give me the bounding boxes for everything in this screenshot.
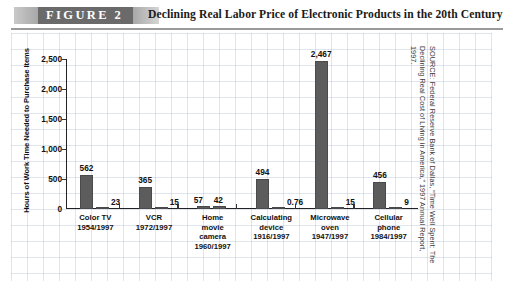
chart-bar — [197, 206, 210, 209]
chart-bar — [139, 187, 152, 209]
chart-bar — [315, 61, 328, 209]
header-divider — [11, 28, 503, 30]
figure-header: FIGURE 2 Declining Real Labor Price of E… — [0, 6, 509, 28]
bar-group: 5742 — [183, 45, 242, 209]
chart-bar — [155, 207, 168, 209]
bar-group: 4940.76 — [242, 45, 301, 209]
badge-left-gradient — [14, 7, 38, 24]
chart-bar — [389, 207, 402, 209]
x-axis-group-separator — [177, 204, 178, 209]
bar-value-label: 365 — [132, 175, 159, 185]
y-axis-tick-label: 2,000 — [22, 84, 62, 94]
bar-value-label: 42 — [209, 195, 227, 205]
bar-value-label: 562 — [73, 163, 100, 173]
y-axis-tick-label: 2,500 — [22, 54, 62, 64]
y-axis-tick-labels: 05001,0001,5002,0002,500 — [0, 33, 62, 281]
bar-value-label: 57 — [189, 195, 207, 205]
x-axis-group-separator — [295, 204, 296, 209]
figure-number-label: FIGURE 2 — [38, 7, 133, 24]
bar-group: 2,46715 — [301, 45, 360, 209]
x-axis-group-separator — [119, 204, 120, 209]
x-axis-group-separator — [353, 204, 354, 209]
chart-bar — [80, 175, 93, 209]
chart-bar — [256, 179, 269, 209]
bar-group: 36515 — [125, 45, 184, 209]
x-axis-group-separator — [236, 204, 237, 209]
category-label-line: 1960/1997 — [167, 242, 258, 252]
bar-value-label: 456 — [366, 170, 393, 180]
y-axis-tick-label: 1,500 — [22, 114, 62, 124]
bar-group: 56223 — [66, 45, 125, 209]
y-axis-tick-label: 500 — [22, 174, 62, 184]
source-note: SOURCE: Federal Reserve Bank of Dallas, … — [408, 46, 437, 272]
chart-bar — [213, 206, 226, 209]
figure-number-badge: FIGURE 2 — [14, 7, 159, 24]
chart-bar — [96, 207, 109, 209]
chart-bar — [331, 207, 344, 209]
bar-value-label: 2,467 — [308, 49, 335, 59]
chart-bar — [373, 182, 386, 209]
bar-value-label: 494 — [249, 167, 276, 177]
figure-container: FIGURE 2 Declining Real Labor Price of E… — [0, 0, 509, 292]
y-axis-tick-label: 1,000 — [22, 144, 62, 154]
plot-area: 56223Color TV1954/199736515VCR1972/19975… — [66, 33, 418, 281]
chart-bar — [272, 207, 285, 209]
figure-title: Declining Real Labor Price of Electronic… — [148, 8, 503, 21]
